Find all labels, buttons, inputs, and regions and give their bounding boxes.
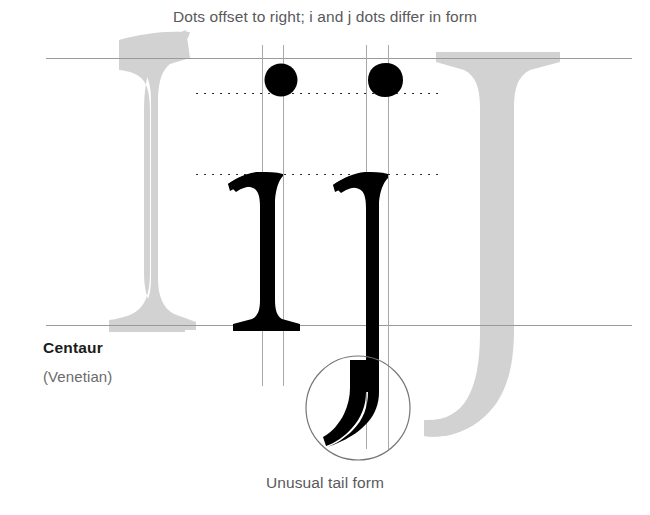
typeface-classification: (Venetian) [43, 369, 112, 384]
figure-canvas: Dots offset to right; i and j dots diffe… [0, 0, 650, 515]
bottom-caption: Unusual tail form [266, 474, 384, 492]
ghost-letter-I-body [110, 30, 196, 330]
typographic-diagram [0, 0, 650, 515]
j-dot [368, 63, 403, 97]
i-stem [228, 172, 300, 331]
typeface-label-block: Centaur (Venetian) [43, 340, 112, 384]
i-dot [265, 64, 298, 97]
typeface-name: Centaur [43, 340, 112, 356]
ghost-letter-J [424, 52, 560, 437]
specimen-letter-j [323, 63, 403, 447]
specimen-letter-i [228, 64, 300, 332]
